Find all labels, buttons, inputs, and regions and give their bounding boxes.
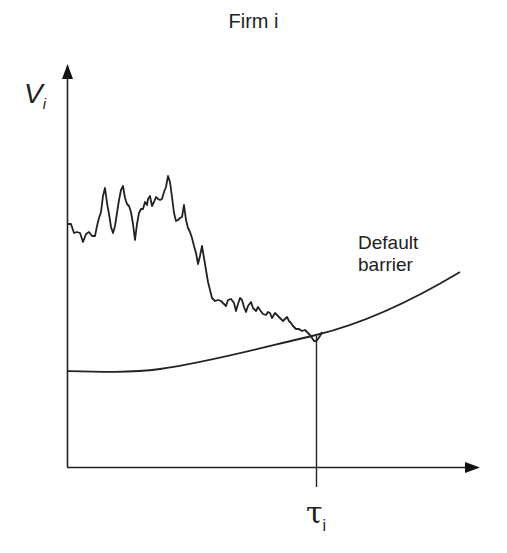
x-axis-arrowhead-icon [465, 462, 480, 473]
diagram-canvas [0, 0, 507, 553]
y-axis-arrowhead-icon [62, 64, 73, 79]
default-barrier-curve [67, 272, 460, 372]
firm-value-path [68, 176, 322, 341]
